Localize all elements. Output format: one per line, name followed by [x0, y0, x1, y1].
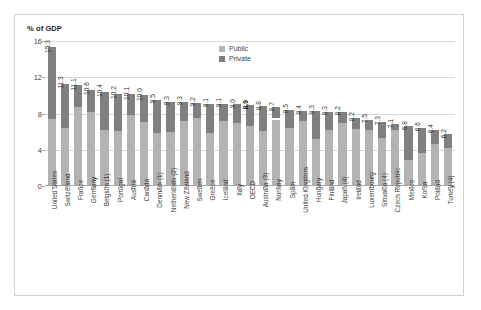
bar-slot[interactable]: 9.3	[177, 41, 190, 186]
bar-slot[interactable]: 8.9	[243, 41, 256, 186]
bar-stack[interactable]: 8.5	[285, 110, 293, 186]
category-label-slot: Greece	[204, 190, 217, 290]
chart-container: % of GDP Public Private 0481216 15.311.3…	[14, 14, 464, 296]
bar-segment-private[interactable]	[48, 47, 56, 119]
bar-slot[interactable]: 10.0	[138, 41, 151, 186]
bar-stack[interactable]: 10.0	[140, 95, 148, 186]
bar-value-label: 9.3	[177, 96, 184, 105]
x-axis-category-label: Japan (4)	[342, 177, 348, 204]
bar-slot[interactable]: 8.4	[296, 41, 309, 186]
bar-stack[interactable]: 9.0	[233, 104, 241, 186]
bar-value-label: 9.5	[151, 94, 158, 103]
bar-segment-public[interactable]	[87, 112, 95, 186]
bar-stack[interactable]: 9.2	[193, 103, 201, 186]
bar-slot[interactable]: 7.5	[362, 41, 375, 186]
bar-slot[interactable]: 8.7	[270, 41, 283, 186]
bar-segment-private[interactable]	[61, 84, 69, 128]
bar-slot[interactable]: 10.4	[98, 41, 111, 186]
bar-stack[interactable]: 8.9	[246, 105, 254, 186]
bar-slot[interactable]: 10.2	[111, 41, 124, 186]
category-axis-labels: United StatesSwitzerlandFranceGermanyBel…	[45, 190, 455, 290]
bar-stack[interactable]: 9.1	[206, 104, 214, 186]
bar-segment-public[interactable]	[140, 122, 148, 186]
bar-value-label: 8.2	[349, 112, 356, 121]
bar-segment-private[interactable]	[404, 126, 412, 160]
bar-segment-public[interactable]	[233, 123, 241, 186]
bar-stack[interactable]: 6.4	[431, 130, 439, 186]
bar-value-label: 9.1	[204, 98, 211, 107]
bar-stack[interactable]: 8.2	[352, 118, 360, 186]
bar-slot[interactable]: 8.2	[349, 41, 362, 186]
bar-stack[interactable]: 10.6	[87, 90, 95, 186]
bar-slot[interactable]: 7.3	[375, 41, 388, 186]
x-axis-category-label: Germany	[91, 177, 97, 203]
bar-stack[interactable]: 10.4	[100, 92, 108, 186]
category-label-slot: United States	[45, 190, 58, 290]
bar-segment-private[interactable]	[418, 128, 426, 153]
x-axis-category-label: Hungary	[316, 178, 322, 202]
x-axis-category-label: Portugal	[118, 178, 124, 202]
bar-segment-private[interactable]	[100, 92, 108, 130]
bar-stack[interactable]: 8.3	[325, 112, 333, 186]
bar-slot[interactable]: 6.8	[402, 41, 415, 186]
x-axis-category-label: Slovakia (4)	[382, 173, 388, 207]
bar-slot[interactable]: 9.1	[217, 41, 230, 186]
bar-stack[interactable]: 8.2	[338, 112, 346, 186]
bar-slot[interactable]: 9.3	[164, 41, 177, 186]
bar-slot[interactable]: 8.5	[283, 41, 296, 186]
bar-slot[interactable]: 9.1	[204, 41, 217, 186]
x-axis-category-label: Czech Republic	[395, 168, 401, 213]
bar-value-label: 9.3	[164, 96, 171, 105]
category-label-slot: Netherlands (2)	[164, 190, 177, 290]
bar-segment-private[interactable]	[166, 102, 174, 132]
bar-segment-public[interactable]	[127, 115, 135, 186]
bar-segment-private[interactable]	[312, 111, 320, 139]
bar-slot[interactable]: 8.8	[257, 41, 270, 186]
bar-stack[interactable]: 11.1	[74, 85, 82, 186]
bar-stack[interactable]: 15.3	[48, 47, 56, 186]
bar-slot[interactable]: 15.3	[45, 41, 58, 186]
bar-segment-public[interactable]	[352, 129, 360, 186]
bar-segment-public[interactable]	[74, 107, 82, 186]
x-axis-category-label: Sweden	[197, 178, 203, 201]
bar-slot[interactable]: 8.2	[336, 41, 349, 186]
bar-value-label: 8.9	[243, 100, 250, 109]
bar-stack[interactable]: 9.1	[219, 104, 227, 186]
bar-slot[interactable]: 9.2	[190, 41, 203, 186]
x-axis-category-label: New Zealand	[184, 171, 190, 209]
bar-segment-public[interactable]	[325, 130, 333, 186]
bar-segment-public[interactable]	[272, 120, 280, 186]
bar-slot[interactable]: 6.4	[428, 41, 441, 186]
bar-slot[interactable]: 9.5	[151, 41, 164, 186]
bar-stack[interactable]: 8.7	[272, 107, 280, 186]
bar-segment-public[interactable]	[193, 118, 201, 186]
bar-stack[interactable]: 10.2	[114, 94, 122, 186]
category-label-slot: Switzerland	[58, 190, 71, 290]
bar-slot[interactable]: 6.6	[415, 41, 428, 186]
bar-slot[interactable]: 11.3	[58, 41, 71, 186]
bar-segment-private[interactable]	[114, 94, 122, 131]
bar-segment-private[interactable]	[206, 104, 214, 134]
bar-value-label: 11.3	[58, 76, 65, 88]
bar-stack[interactable]: 10.1	[127, 94, 135, 186]
category-label-slot: Luxembourg	[362, 190, 375, 290]
bar-slot[interactable]: 10.6	[85, 41, 98, 186]
bar-segment-public[interactable]	[206, 133, 214, 186]
category-label-slot: Hungary	[309, 190, 322, 290]
bar-segment-private[interactable]	[153, 100, 161, 134]
x-axis-category-label: Norway	[276, 179, 282, 201]
bar-slot[interactable]: 9.0	[230, 41, 243, 186]
bar-slot[interactable]: 7.1	[389, 41, 402, 186]
bar-segment-public[interactable]	[285, 128, 293, 186]
bar-slot[interactable]: 11.1	[71, 41, 84, 186]
bar-stack[interactable]: 11.3	[61, 84, 69, 186]
bar-stack[interactable]: 6.6	[418, 128, 426, 186]
bar-segment-public[interactable]	[246, 126, 254, 186]
bar-stack[interactable]: 6.8	[404, 126, 412, 186]
bar-slot[interactable]: 6.2	[442, 41, 455, 186]
bar-segment-public[interactable]	[219, 121, 227, 186]
bar-value-label: 9.1	[217, 98, 224, 107]
bar-value-label: 10.4	[98, 84, 105, 97]
bar-stack[interactable]: 8.3	[312, 111, 320, 186]
bar-slot[interactable]: 10.1	[124, 41, 137, 186]
